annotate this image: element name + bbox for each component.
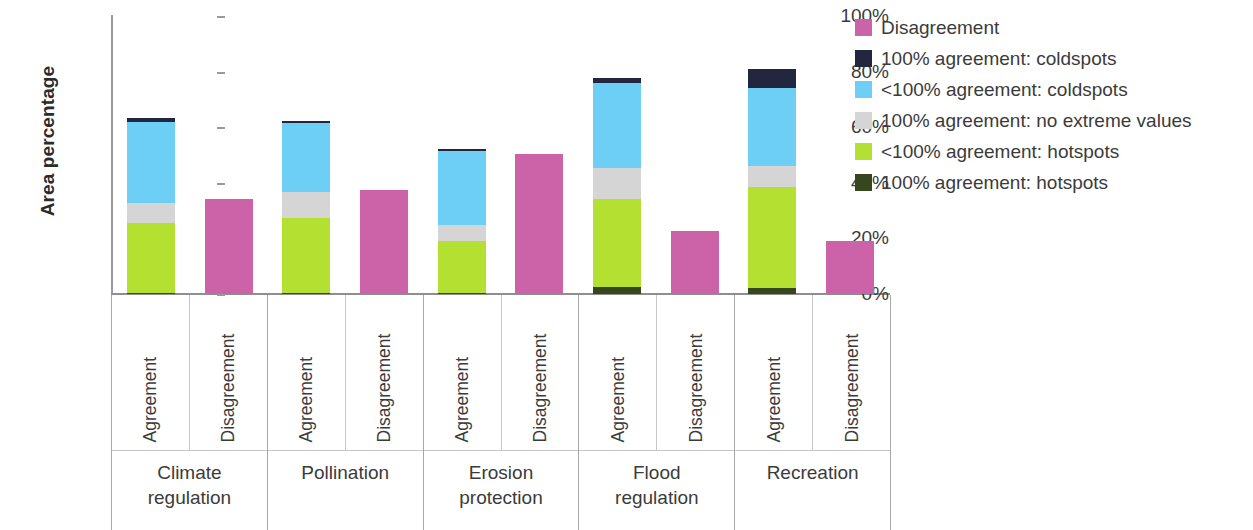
x-axis-sub-cell: Agreement xyxy=(112,295,189,450)
bar-segment xyxy=(438,225,486,241)
x-axis-sub-label: Disagreement xyxy=(218,333,239,443)
legend-label: 100% agreement: hotspots xyxy=(881,172,1108,194)
bar-segment xyxy=(282,218,330,293)
bar-segment xyxy=(748,69,796,88)
x-axis-sub-label: Agreement xyxy=(296,333,317,443)
y-axis-title: Area percentage xyxy=(37,41,59,241)
x-axis-sub-label: Disagreement xyxy=(529,333,550,443)
bar-climate-regulation-disagreement xyxy=(205,199,253,294)
x-axis-subgroup-row: AgreementDisagreement xyxy=(268,295,423,450)
x-axis-subgroup-row: AgreementDisagreement xyxy=(112,295,267,450)
legend-label: Disagreement xyxy=(881,17,999,39)
legend-label: <100% agreement: coldspots xyxy=(881,79,1128,101)
x-axis-sub-cell: Disagreement xyxy=(501,295,579,450)
bar-segment xyxy=(593,83,641,168)
bar-segment xyxy=(282,293,330,294)
bar-erosion-protection-agreement xyxy=(438,149,486,294)
x-axis-group-label: Flood regulation xyxy=(615,460,698,511)
x-axis-sub-cell: Agreement xyxy=(579,295,656,450)
legend-swatch-icon xyxy=(855,112,872,129)
bar-flood-regulation-agreement xyxy=(593,78,641,294)
x-axis-sub-cell: Disagreement xyxy=(189,295,267,450)
bar-segment xyxy=(748,88,796,166)
x-axis-sub-label: Disagreement xyxy=(841,333,862,443)
x-axis-group-cell: AgreementDisagreementErosion protection xyxy=(424,295,580,530)
x-axis-group-cell: AgreementDisagreementFlood regulation xyxy=(579,295,735,530)
legend-swatch-icon xyxy=(855,143,872,160)
x-axis-sub-cell: Disagreement xyxy=(345,295,423,450)
legend-item: 100% agreement: coldspots xyxy=(855,43,1247,74)
legend-item: <100% agreement: coldspots xyxy=(855,74,1247,105)
x-axis-group-label: Erosion protection xyxy=(459,460,542,511)
bars-layer xyxy=(112,16,889,294)
bar-recreation-disagreement xyxy=(826,241,874,294)
x-axis-sub-label: Agreement xyxy=(607,333,628,443)
x-axis-sub-cell: Disagreement xyxy=(656,295,734,450)
bar-climate-regulation-agreement xyxy=(127,118,175,294)
x-axis-sub-label: Agreement xyxy=(763,333,784,443)
legend-item: <100% agreement: hotspots xyxy=(855,136,1247,167)
bar-segment xyxy=(438,151,486,224)
bar-segment xyxy=(282,123,330,192)
legend-item: 100% agreement: hotspots xyxy=(855,167,1247,198)
x-axis-sub-cell: Agreement xyxy=(268,295,345,450)
x-axis-group-row: Erosion protection xyxy=(424,450,579,530)
bar-segment xyxy=(593,199,641,287)
x-axis-sub-label: Agreement xyxy=(140,333,161,443)
bar-erosion-protection-disagreement xyxy=(515,154,563,294)
bar-segment xyxy=(127,122,175,203)
legend-label: 100% agreement: no extreme values xyxy=(881,110,1192,132)
legend-swatch-icon xyxy=(855,50,872,67)
x-axis-group-row: Pollination xyxy=(268,450,423,530)
x-axis-sub-cell: Agreement xyxy=(424,295,501,450)
x-axis-group-row: Recreation xyxy=(735,450,890,530)
bar-segment xyxy=(593,168,641,200)
bar-segment xyxy=(515,154,563,294)
legend-item: 100% agreement: no extreme values xyxy=(855,105,1247,136)
bar-segment xyxy=(127,203,175,223)
bar-segment xyxy=(826,241,874,294)
x-axis-group-row: Climate regulation xyxy=(112,450,267,530)
x-axis-sub-label: Disagreement xyxy=(374,333,395,443)
x-axis-sub-cell: Disagreement xyxy=(812,295,890,450)
x-axis-subgroup-row: AgreementDisagreement xyxy=(424,295,579,450)
bar-segment xyxy=(593,287,641,294)
legend-swatch-icon xyxy=(855,19,872,36)
bar-pollination-agreement xyxy=(282,121,330,294)
x-axis-sub-label: Agreement xyxy=(452,333,473,443)
legend-swatch-icon xyxy=(855,81,872,98)
bar-segment xyxy=(748,187,796,289)
x-axis-subgroup-row: AgreementDisagreement xyxy=(735,295,890,450)
x-axis-sub-cell: Agreement xyxy=(735,295,812,450)
x-axis-group-label: Climate regulation xyxy=(148,460,231,511)
x-axis-group-cell: AgreementDisagreementClimate regulation xyxy=(112,295,268,530)
x-axis-group-label: Pollination xyxy=(301,460,389,485)
legend-label: 100% agreement: coldspots xyxy=(881,48,1117,70)
chart-legend: Disagreement100% agreement: coldspots<10… xyxy=(855,12,1247,198)
bar-segment xyxy=(127,293,175,294)
legend-item: Disagreement xyxy=(855,12,1247,43)
x-axis-subgroup-row: AgreementDisagreement xyxy=(579,295,734,450)
x-axis-label-grid: AgreementDisagreementClimate regulationA… xyxy=(111,295,891,530)
bar-segment xyxy=(205,199,253,294)
bar-recreation-agreement xyxy=(748,69,796,294)
legend-label: <100% agreement: hotspots xyxy=(881,141,1119,163)
x-axis-sub-label: Disagreement xyxy=(685,333,706,443)
bar-segment xyxy=(438,293,486,294)
bar-segment xyxy=(671,231,719,294)
chart-root: Area percentage 100%80%60%40%20%0% Agree… xyxy=(0,0,1253,530)
legend-swatch-icon xyxy=(855,174,872,191)
bar-segment xyxy=(748,166,796,187)
bar-segment xyxy=(282,192,330,218)
bar-segment xyxy=(360,190,408,294)
x-axis-group-cell: AgreementDisagreementPollination xyxy=(268,295,424,530)
bar-segment xyxy=(438,241,486,294)
x-axis-group-cell: AgreementDisagreementRecreation xyxy=(735,295,891,530)
bar-flood-regulation-disagreement xyxy=(671,231,719,294)
x-axis-group-row: Flood regulation xyxy=(579,450,734,530)
bar-pollination-disagreement xyxy=(360,190,408,294)
bar-segment xyxy=(748,288,796,294)
bar-segment xyxy=(127,223,175,293)
x-axis-group-label: Recreation xyxy=(767,460,859,485)
